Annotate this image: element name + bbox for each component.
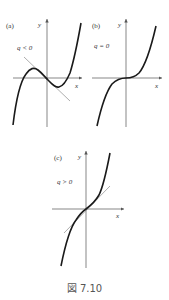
y-axis-label: y — [117, 21, 122, 29]
tangent-line — [64, 186, 110, 233]
x-axis-label: x — [74, 82, 79, 90]
figure-caption: 図 7.10 — [0, 280, 169, 295]
x-axis-label: x — [115, 212, 120, 220]
panel-label: (b) — [92, 22, 101, 30]
panel-b: (b) y x q = 0 — [92, 19, 162, 127]
condition-label: q = 0 — [94, 42, 110, 50]
panel-c: (c) y x q > 0 — [52, 151, 124, 268]
cubic-curve — [61, 153, 110, 266]
y-axis-label: y — [77, 153, 82, 161]
x-axis-label: x — [154, 82, 159, 90]
y-axis-label: y — [37, 21, 42, 29]
figure-canvas: (a) y x q < 0 (b) y x q = 0 (c) y x q > … — [0, 0, 169, 300]
condition-label: q > 0 — [57, 178, 73, 186]
condition-label: q < 0 — [17, 44, 33, 52]
panel-label: (c) — [54, 154, 62, 162]
panel-label: (a) — [6, 22, 14, 30]
panel-a: (a) y x q < 0 — [6, 19, 82, 127]
cubic-curve — [97, 26, 156, 126]
